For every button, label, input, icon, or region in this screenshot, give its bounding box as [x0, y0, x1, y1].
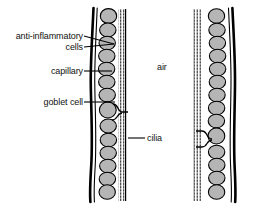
label-air: air: [157, 62, 167, 73]
epithelial-cell: [100, 133, 116, 147]
label-capillary: capillary: [6, 66, 83, 77]
left-basement-membrane: [90, 8, 93, 202]
label-anti-inflammatory-cells-line2: cells: [6, 42, 83, 53]
epithelial-cell: [99, 185, 115, 199]
right-airway-wall: [194, 8, 235, 202]
epithelial-cell: [99, 36, 115, 50]
epithelial-cell: [208, 9, 224, 23]
left-ciliated-border: [118, 9, 126, 201]
goblet-cell: [208, 128, 225, 144]
epithelial-cell: [209, 171, 225, 185]
epithelial-cell: [208, 114, 224, 128]
right-epithelial-cell-column: [208, 9, 226, 199]
epithelial-cell: [99, 172, 115, 186]
epithelial-cell: [209, 158, 225, 172]
label-anti-inflammatory-cells-line1: anti-inflammatory: [6, 31, 83, 42]
epithelial-cell: [99, 88, 115, 102]
epithelial-cell: [100, 119, 116, 133]
epithelial-cell: [208, 185, 224, 199]
diagram-canvas: anti-inflammatory cells capillary goblet…: [0, 0, 255, 211]
right-ciliated-border: [194, 9, 202, 201]
epithelial-cell: [209, 49, 225, 63]
epithelial-cell: [100, 146, 116, 160]
left-airway-wall: [84, 8, 128, 202]
epithelial-cell: [100, 23, 116, 37]
epithelial-cell: [209, 88, 225, 102]
right-inner-membrane: [229, 8, 232, 202]
epithelial-cell: [209, 75, 225, 89]
label-anti-inflammatory-cells: anti-inflammatory cells: [6, 31, 83, 53]
label-goblet-cell: goblet cell: [6, 97, 83, 108]
right-basement-membrane: [232, 8, 235, 202]
epithelial-cell: [209, 62, 225, 76]
epithelial-cell: [99, 75, 115, 89]
epithelial-cell: [98, 62, 114, 76]
epithelial-cell: [209, 23, 225, 37]
left-inner-membrane: [94, 8, 97, 202]
label-cilia: cilia: [147, 133, 162, 144]
epithelial-cell: [208, 101, 224, 115]
epithelial-cell: [100, 159, 116, 173]
epithelial-cell: [100, 9, 116, 24]
epithelial-cell: [99, 49, 115, 63]
epithelial-cell: [208, 145, 224, 159]
epithelial-cell: [209, 36, 225, 50]
